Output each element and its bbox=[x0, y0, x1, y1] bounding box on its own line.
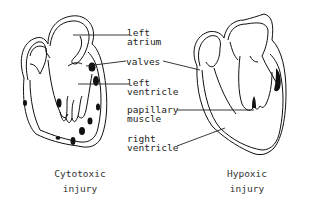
label-papillary-muscle: papillary muscle bbox=[127, 105, 178, 123]
caption-cytotoxic: Cytotoxic injury bbox=[40, 166, 120, 196]
label-valves: valves bbox=[126, 57, 160, 66]
caption-hypoxic: Hypoxic injury bbox=[212, 166, 282, 196]
label-left-ventricle: left ventricle bbox=[127, 78, 178, 96]
label-right-ventricle: right ventricle bbox=[127, 134, 178, 152]
hypoxic-heart bbox=[194, 14, 286, 155]
label-left-atrium: left atrium bbox=[127, 28, 161, 46]
